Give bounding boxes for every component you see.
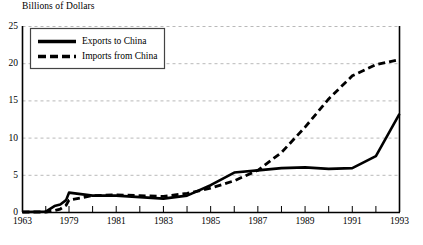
y-tick-label: 15 <box>0 95 18 105</box>
series-line-imports <box>23 59 400 212</box>
x-tick-label: 1993 <box>380 216 420 226</box>
x-tick-label: 1985 <box>191 216 231 226</box>
chart-plot-svg <box>0 0 423 245</box>
x-tick-label: 1987 <box>238 216 278 226</box>
legend-label-exports: Exports to China <box>82 36 146 47</box>
y-tick-label: 25 <box>0 21 18 31</box>
x-tick-label: 1981 <box>96 216 136 226</box>
legend-label-imports: Imports from China <box>82 51 157 62</box>
y-tick-label: 20 <box>0 58 18 68</box>
x-tick-label: 1963 <box>3 216 43 226</box>
y-tick-label: 5 <box>0 170 18 180</box>
x-tick-label: 1991 <box>332 216 372 226</box>
y-tick-label: 10 <box>0 133 18 143</box>
x-tick-marks-group <box>23 206 400 212</box>
x-tick-label: 1979 <box>49 216 89 226</box>
x-tick-label: 1983 <box>143 216 183 226</box>
x-tick-label: 1989 <box>285 216 325 226</box>
chart-container: Billions of Dollars Exports to China Imp… <box>0 0 423 245</box>
legend-box <box>31 29 165 69</box>
